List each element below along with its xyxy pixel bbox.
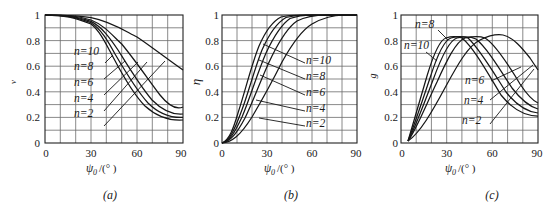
svg-text:0.4: 0.4 bbox=[384, 86, 398, 98]
svg-text:1: 1 bbox=[393, 9, 399, 21]
svg-text:60: 60 bbox=[132, 147, 144, 159]
label-c-n2: n=2 bbox=[462, 114, 482, 126]
label-c-n6: n=6 bbox=[465, 74, 485, 86]
svg-text:30: 30 bbox=[262, 147, 274, 159]
chart-a: n=10 n=8 n=6 n=4 n=2 0 0.2 0.4 0.6 0.8 1… bbox=[8, 9, 187, 202]
svg-text:0.6: 0.6 bbox=[384, 60, 398, 72]
label-c-n4: n=4 bbox=[464, 94, 484, 106]
chart-b: n=10 n=8 n=6 n=4 n=2 0 0.2 0.4 0.6 0.8 1… bbox=[188, 9, 362, 202]
svg-text:1: 1 bbox=[35, 9, 41, 21]
svg-text:0.2: 0.2 bbox=[26, 111, 40, 123]
svg-text:0.8: 0.8 bbox=[26, 35, 40, 47]
svg-text:0.2: 0.2 bbox=[205, 111, 219, 123]
chart-a-x-label: ψ 0 /(° ) bbox=[86, 162, 117, 177]
label-b-n6: n=6 bbox=[306, 86, 326, 98]
svg-text:0: 0 bbox=[35, 137, 41, 149]
label-c-n10: n=10 bbox=[404, 39, 429, 51]
chart-c-x-ticks: 0 30 60 90 bbox=[399, 147, 543, 159]
svg-text:0.4: 0.4 bbox=[26, 86, 40, 98]
label-a-n4: n=4 bbox=[74, 92, 94, 104]
chart-a-x-ticks: 0 30 60 90 bbox=[43, 147, 187, 159]
chart-c-x-label: ψ 0 /(° ) bbox=[445, 162, 476, 177]
label-b-n10: n=10 bbox=[306, 54, 331, 66]
svg-text:0: 0 bbox=[219, 147, 225, 159]
label-a-n2: n=2 bbox=[74, 107, 94, 119]
svg-text:0.2: 0.2 bbox=[384, 111, 398, 123]
svg-text:0.4: 0.4 bbox=[205, 86, 219, 98]
chart-a-caption: (a) bbox=[103, 188, 117, 202]
chart-a-grid bbox=[45, 15, 183, 143]
svg-text:/(° ): /(° ) bbox=[277, 162, 295, 175]
chart-b-caption: (b) bbox=[284, 188, 298, 202]
label-c-n8: n=8 bbox=[415, 18, 435, 30]
svg-text:0: 0 bbox=[43, 147, 49, 159]
svg-text:30: 30 bbox=[86, 147, 98, 159]
svg-text:0: 0 bbox=[393, 137, 399, 149]
svg-text:0: 0 bbox=[271, 168, 275, 177]
chart-b-x-label: ψ 0 /(° ) bbox=[264, 162, 295, 177]
svg-text:60: 60 bbox=[487, 147, 499, 159]
label-b-n8: n=8 bbox=[306, 70, 326, 82]
svg-text:/(° ): /(° ) bbox=[99, 162, 117, 175]
svg-text:90: 90 bbox=[176, 147, 188, 159]
label-a-n8: n=8 bbox=[74, 60, 94, 72]
label-b-n4: n=4 bbox=[306, 102, 326, 114]
svg-text:0: 0 bbox=[452, 168, 456, 177]
label-b-n2: n=2 bbox=[306, 117, 326, 129]
chart-c: n=8 n=10 n=6 n=4 n=2 0 0.2 0.4 0.6 0.8 1… bbox=[367, 9, 543, 202]
svg-text:/(° ): /(° ) bbox=[458, 162, 476, 175]
chart-c-caption: (c) bbox=[485, 188, 498, 202]
svg-text:0.6: 0.6 bbox=[205, 60, 219, 72]
svg-text:0.6: 0.6 bbox=[26, 60, 40, 72]
chart-b-x-ticks: 0 30 60 90 bbox=[219, 147, 362, 159]
chart-c-y-label: g bbox=[367, 74, 378, 79]
svg-text:90: 90 bbox=[532, 147, 544, 159]
chart-b-leaders bbox=[256, 44, 305, 126]
svg-text:0: 0 bbox=[399, 147, 405, 159]
svg-text:0.8: 0.8 bbox=[384, 35, 398, 47]
chart-a-y-ticks: 0 0.2 0.4 0.6 0.8 1 bbox=[26, 9, 40, 149]
figure-canvas: n=10 n=8 n=6 n=4 n=2 0 0.2 0.4 0.6 0.8 1… bbox=[0, 0, 556, 213]
curve-a-n4 bbox=[45, 15, 183, 108]
chart-b-y-ticks: 0 0.2 0.4 0.6 0.8 1 bbox=[205, 9, 219, 149]
label-a-n6: n=6 bbox=[74, 76, 94, 88]
svg-text:1: 1 bbox=[214, 9, 220, 21]
svg-text:0: 0 bbox=[93, 168, 97, 177]
chart-a-series-labels: n=10 n=8 n=6 n=4 n=2 bbox=[74, 45, 99, 119]
svg-text:60: 60 bbox=[307, 147, 319, 159]
chart-c-y-ticks: 0 0.2 0.4 0.6 0.8 1 bbox=[384, 9, 398, 149]
svg-text:0.8: 0.8 bbox=[205, 35, 219, 47]
svg-text:90: 90 bbox=[351, 147, 363, 159]
chart-a-y-label: ν bbox=[8, 80, 18, 84]
chart-b-y-label: η bbox=[188, 79, 203, 85]
svg-text:30: 30 bbox=[441, 147, 453, 159]
curve-a-n2 bbox=[45, 15, 183, 70]
label-a-n10: n=10 bbox=[74, 45, 99, 57]
